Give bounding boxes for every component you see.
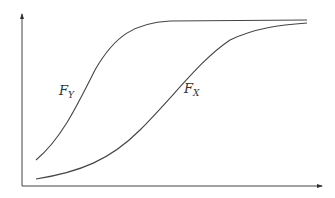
curve-fx — [36, 23, 307, 179]
label-fy: FY — [58, 83, 75, 100]
label-fx: FX — [183, 81, 200, 98]
curve-fy — [36, 20, 307, 160]
cdf-diagram: FY FX — [0, 0, 335, 198]
